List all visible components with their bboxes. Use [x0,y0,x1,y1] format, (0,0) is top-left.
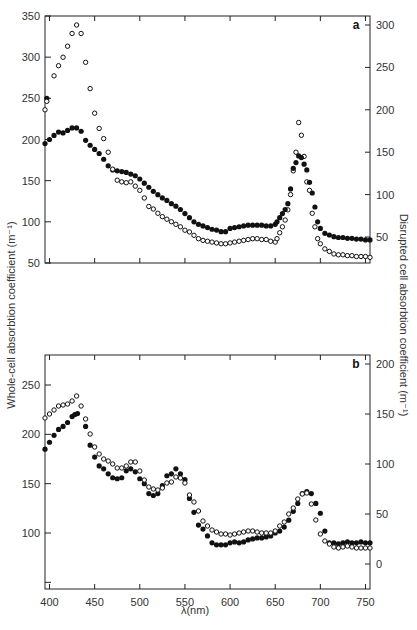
whole-cell-point [191,219,196,224]
whole-cell-point [200,526,205,531]
disrupted-cell-point [354,254,358,258]
disrupted-cell-point [43,108,47,112]
disrupted-cell-point [264,531,268,535]
whole-cell-point [178,207,183,212]
whole-cell-point [214,542,219,547]
plot-frame [45,355,370,589]
disrupted-cell-point [111,462,115,466]
whole-cell-point [299,155,304,160]
whole-cell-point [285,201,290,206]
whole-cell-point [164,473,169,478]
whole-cell-point [151,189,156,194]
disrupted-cell-point [327,542,331,546]
disrupted-cell-point [354,546,358,550]
whole-cell-point [309,491,314,496]
whole-cell-point [349,236,354,241]
whole-cell-point [218,542,223,547]
disrupted-cell-point [268,239,272,243]
whole-cell-point [255,223,260,228]
disrupted-cell-point [237,239,241,243]
disrupted-cell-point [142,196,146,200]
disrupted-cell-point [83,417,87,421]
disrupted-cell-point [201,238,205,242]
whole-cell-point [315,219,320,224]
x-tick-label: 450 [85,596,103,608]
disrupted-cell-point [264,237,268,241]
disrupted-cell-point [345,544,349,548]
whole-cell-point [241,539,246,544]
whole-cell-point [133,173,138,178]
disrupted-cell-point [79,404,83,408]
x-tick-label: 750 [356,596,374,608]
disrupted-cell-point [115,178,119,182]
disrupted-cell-point [106,459,110,463]
disrupted-cell-point [228,533,232,537]
whole-cell-point [137,476,142,481]
whole-cell-point [187,215,192,220]
disrupted-cell-point [156,488,160,492]
disrupted-cell-point [341,253,345,257]
whole-cell-point [293,160,298,165]
left-tick-label: 200 [22,428,40,440]
disrupted-cell-point [359,546,363,550]
disrupted-cell-point [74,394,78,398]
disrupted-cell-point [196,509,200,513]
disrupted-cell-point [318,242,322,246]
disrupted-cell-point [183,481,187,485]
whole-cell-point [155,192,160,197]
disrupted-cell-point [223,242,227,246]
left-axis-title: Whole-cell absorbtion coefficient (m⁻¹) [5,221,17,408]
disrupted-cell-point [282,520,286,524]
disrupted-cell-point [147,485,151,489]
whole-cell-point [336,235,341,240]
whole-cell-point [227,226,232,231]
whole-cell-point [92,454,97,459]
whole-cell-point [250,223,255,228]
x-tick-label: 650 [266,596,284,608]
disrupted-cell-point [205,239,209,243]
whole-cell-point [241,223,246,228]
disrupted-cell-point [359,254,363,258]
whole-cell-point [115,476,120,481]
whole-cell-point [312,204,317,209]
whole-cell-point [65,128,70,133]
left-tick-label: 350 [22,10,40,22]
whole-cell-point [115,168,120,173]
disrupted-cell-point [214,241,218,245]
whole-cell-point [74,125,79,130]
panel-b: 4004505005506006507007501001502002500501… [22,355,395,608]
disrupted-cell-point [278,524,282,528]
disrupted-cell-point [345,253,349,257]
disrupted-cell-point [61,403,65,407]
whole-cell-point [173,204,178,209]
disrupted-cell-point [88,432,92,436]
disrupted-cell-point [296,120,300,124]
disrupted-cell-point [363,254,367,258]
disrupted-cell-point [305,491,309,495]
disrupted-cell-point [196,236,200,240]
disrupted-cell-point [341,545,345,549]
whole-cell-point [367,540,372,545]
disrupted-cell-point [363,546,367,550]
disrupted-cell-point [259,531,263,535]
disrupted-cell-point [250,236,254,240]
whole-cell-point [363,540,368,545]
whole-cell-point [301,162,306,167]
disrupted-cell-point [52,74,56,78]
panel-label: a [353,18,360,32]
whole-cell-point [218,229,223,234]
whole-cell-point [97,151,102,156]
disrupted-cell-point [232,240,236,244]
x-tick-label: 500 [131,596,149,608]
whole-cell-point [124,468,129,473]
whole-cell-point [255,535,260,540]
whole-cell-point [310,190,315,195]
disrupted-cell-point [368,255,372,259]
disrupted-cell-point [138,469,142,473]
disrupted-cell-point [255,236,259,240]
disrupted-cell-point [287,512,291,516]
whole-cell-point [151,493,156,498]
whole-cell-point [331,234,336,239]
disrupted-cell-point [178,476,182,480]
x-axis-title: λ(nm) [181,604,209,616]
